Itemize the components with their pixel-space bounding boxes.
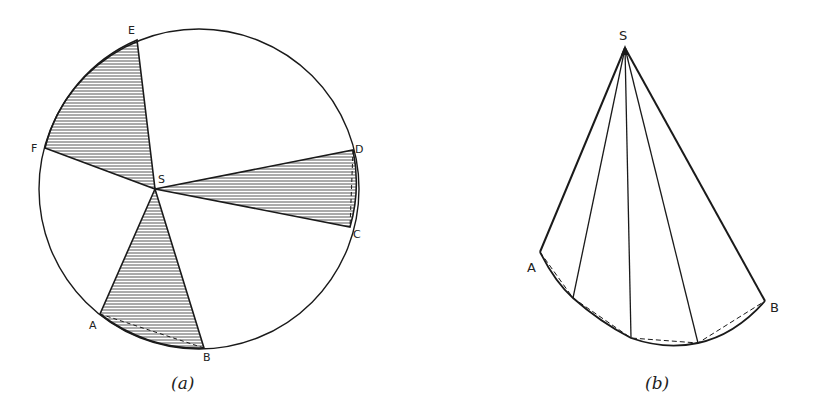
generator-sa	[540, 48, 625, 252]
label-s-b: S	[619, 28, 627, 43]
label-a-b: A	[527, 260, 536, 275]
caption-a: (a)	[171, 373, 194, 393]
shaded-sector-efs	[45, 40, 155, 189]
label-s-a: S	[158, 173, 165, 186]
generator-2	[625, 48, 631, 338]
generator-1	[573, 48, 625, 298]
figure-a: S E F A B C D (a)	[31, 24, 363, 393]
generator-sb	[625, 48, 765, 301]
label-b-b: B	[770, 300, 779, 315]
caption-b: (b)	[645, 373, 669, 393]
shaded-sector-dcs	[155, 150, 356, 227]
label-e: E	[128, 24, 135, 37]
generator-3	[625, 48, 698, 343]
apex-marker	[621, 45, 629, 55]
label-a: A	[89, 319, 97, 332]
label-f: F	[31, 142, 37, 155]
label-c: C	[353, 228, 361, 241]
cone-development-diagram: S E F A B C D (a) S A B (b)	[0, 0, 815, 412]
label-d: D	[355, 143, 363, 156]
label-b: B	[203, 351, 211, 364]
figure-b: S A B (b)	[527, 28, 779, 393]
shaded-sector-abs	[100, 189, 204, 348]
